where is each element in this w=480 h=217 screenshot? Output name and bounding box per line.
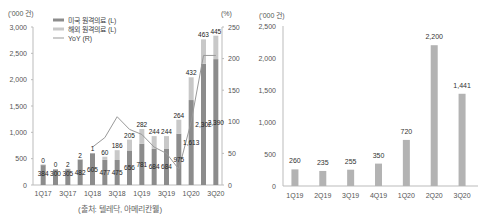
bar-group-3Q20 bbox=[213, 36, 218, 185]
value-label-us: 477 bbox=[99, 169, 110, 176]
value-label-overseas: 1 bbox=[91, 145, 95, 152]
x-tick: 3Q18 bbox=[109, 190, 126, 198]
value-label-us: 300 bbox=[50, 170, 61, 177]
bar-group-2Q19 bbox=[152, 136, 157, 185]
value-label: 720 bbox=[401, 128, 413, 135]
bar-group-2Q20 bbox=[201, 39, 206, 185]
x-tick: 3Q19 bbox=[158, 190, 175, 198]
value-label-overseas: 445 bbox=[210, 28, 221, 35]
bar-3Q19 bbox=[347, 170, 354, 186]
legend-label: 해외 원격의료 (L) bbox=[68, 25, 116, 34]
left-y-tick: 0 bbox=[23, 182, 27, 189]
value-label-us: 781 bbox=[136, 161, 147, 168]
bar-1Q19 bbox=[291, 169, 298, 186]
value-label-us: 475 bbox=[112, 169, 123, 176]
bar-overseas bbox=[201, 39, 206, 63]
value-label-overseas: 432 bbox=[186, 69, 197, 76]
value-label-us: 1,613 bbox=[183, 139, 200, 146]
bar-3Q20 bbox=[459, 94, 466, 186]
right-bar-chart: ('000 건)05001,0001,5002,0002,5002601Q192… bbox=[240, 0, 480, 200]
legend: 미국 원격의료 (L)해외 원격의료 (L)YoY (R) bbox=[53, 16, 116, 43]
right-y-tick: 250 bbox=[228, 24, 240, 31]
bar-overseas bbox=[176, 120, 181, 134]
value-label-us: 482 bbox=[75, 169, 86, 176]
x-tick: 1Q18 bbox=[84, 190, 101, 198]
x-tick: 3Q19 bbox=[342, 192, 359, 200]
value-label: 2,200 bbox=[425, 33, 443, 40]
value-label: 235 bbox=[317, 159, 329, 166]
right-y-tick: 0 bbox=[228, 182, 232, 189]
y-tick: 500 bbox=[264, 151, 276, 158]
value-label-us: 2,390 bbox=[208, 119, 225, 126]
bar-group-4Q19 bbox=[176, 120, 181, 185]
value-label-us: 305 bbox=[62, 170, 73, 177]
x-tick: 2Q20 bbox=[426, 192, 443, 200]
bar-group-4Q18 bbox=[127, 140, 132, 185]
right-y-tick: 150 bbox=[228, 87, 240, 94]
value-label-us: 384 bbox=[38, 170, 49, 177]
x-tick: 3Q17 bbox=[59, 190, 76, 198]
left-y-tick: 1,500 bbox=[9, 103, 27, 110]
value-label-overseas: 2 bbox=[66, 161, 70, 168]
value-label: 1,441 bbox=[453, 82, 471, 89]
right-y-tick: 50 bbox=[228, 150, 236, 157]
value-label-overseas: 264 bbox=[173, 112, 184, 119]
legend-label: YoY (R) bbox=[68, 35, 92, 43]
y-tick: 0 bbox=[272, 183, 276, 190]
axis-unit: ('000 건) bbox=[259, 11, 285, 20]
value-label-us: 975 bbox=[173, 156, 184, 163]
x-tick: 3Q20 bbox=[454, 192, 471, 200]
left-y-tick: 3,000 bbox=[9, 24, 27, 31]
x-tick: 1Q17 bbox=[35, 190, 52, 198]
bar-overseas bbox=[102, 157, 107, 160]
bar-2Q20 bbox=[431, 45, 438, 186]
bar-group-1Q19 bbox=[139, 129, 144, 185]
value-label: 350 bbox=[373, 152, 385, 159]
left-y-tick: 2,500 bbox=[9, 50, 27, 57]
value-label-overseas: 244 bbox=[149, 128, 160, 135]
value-label-overseas: 186 bbox=[112, 142, 123, 149]
bar-overseas bbox=[189, 77, 194, 100]
value-label: 255 bbox=[345, 158, 357, 165]
left-y-tick: 2,000 bbox=[9, 76, 27, 83]
x-tick: 3Q20 bbox=[207, 190, 224, 198]
source-caption: (출처: 텔레닥, 아메리칸웰) bbox=[0, 203, 240, 214]
value-label: 260 bbox=[289, 157, 301, 164]
x-tick: 4Q19 bbox=[370, 192, 387, 200]
legend-label: 미국 원격의료 (L) bbox=[68, 16, 116, 25]
y-tick: 1,500 bbox=[258, 87, 276, 94]
bar-overseas bbox=[115, 150, 120, 160]
bar-group-3Q19 bbox=[164, 136, 169, 185]
left-y-tick: 500 bbox=[15, 155, 27, 162]
value-label-us: 656 bbox=[124, 164, 135, 171]
bar-group-1Q20 bbox=[189, 77, 194, 185]
value-label-overseas: 2 bbox=[78, 152, 82, 159]
x-tick: 2Q19 bbox=[314, 192, 331, 200]
value-label-us: 605 bbox=[87, 166, 98, 173]
right-axis-unit: (%) bbox=[221, 10, 232, 18]
x-tick: 1Q20 bbox=[398, 192, 415, 200]
value-label-us: 684 bbox=[149, 163, 160, 170]
y-tick: 1,000 bbox=[258, 119, 276, 126]
bar-4Q19 bbox=[375, 164, 382, 186]
bar-overseas bbox=[78, 160, 83, 161]
bar-overseas bbox=[41, 165, 46, 166]
right-y-tick: 100 bbox=[228, 118, 240, 125]
value-label-overseas: 205 bbox=[124, 132, 135, 139]
value-label-overseas: 0 bbox=[41, 157, 45, 164]
value-label-overseas: 0 bbox=[54, 161, 58, 168]
left-stacked-bar-chart: ('000 건)(%)05001,0001,5002,0002,5003,000… bbox=[0, 0, 240, 200]
bar-overseas bbox=[90, 153, 95, 154]
value-label-overseas: 463 bbox=[198, 31, 209, 38]
y-tick: 2,000 bbox=[258, 55, 276, 62]
value-label-overseas: 60 bbox=[101, 149, 109, 156]
right-y-tick: 200 bbox=[228, 55, 240, 62]
bar-overseas bbox=[164, 136, 169, 149]
value-label-overseas: 282 bbox=[136, 121, 147, 128]
value-label-us: 684 bbox=[161, 163, 172, 170]
bar-1Q20 bbox=[403, 140, 410, 186]
x-tick: 1Q19 bbox=[286, 192, 303, 200]
left-y-tick: 1,000 bbox=[9, 129, 27, 136]
x-tick: 1Q19 bbox=[133, 190, 150, 198]
value-label-overseas: 244 bbox=[161, 128, 172, 135]
